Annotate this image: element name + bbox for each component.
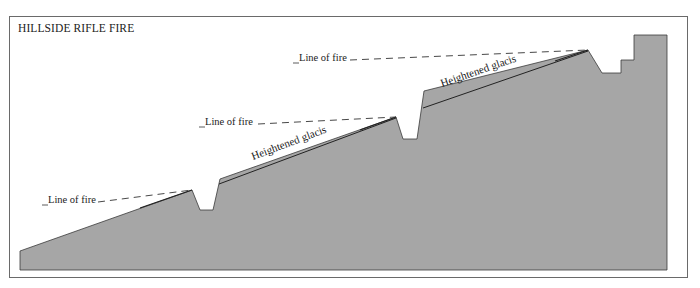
- line-of-fire-label-2: Line of fire: [205, 116, 253, 127]
- line-of-fire-label-1: Line of fire: [48, 194, 96, 205]
- line-of-fire-3: [350, 50, 588, 60]
- hillside-diagram: Line of fire Line of fire Line of fire H…: [0, 0, 700, 288]
- hillside-terrain: [20, 35, 667, 270]
- line-of-fire-2: [258, 117, 396, 124]
- line-of-fire-label-3: Line of fire: [299, 52, 347, 63]
